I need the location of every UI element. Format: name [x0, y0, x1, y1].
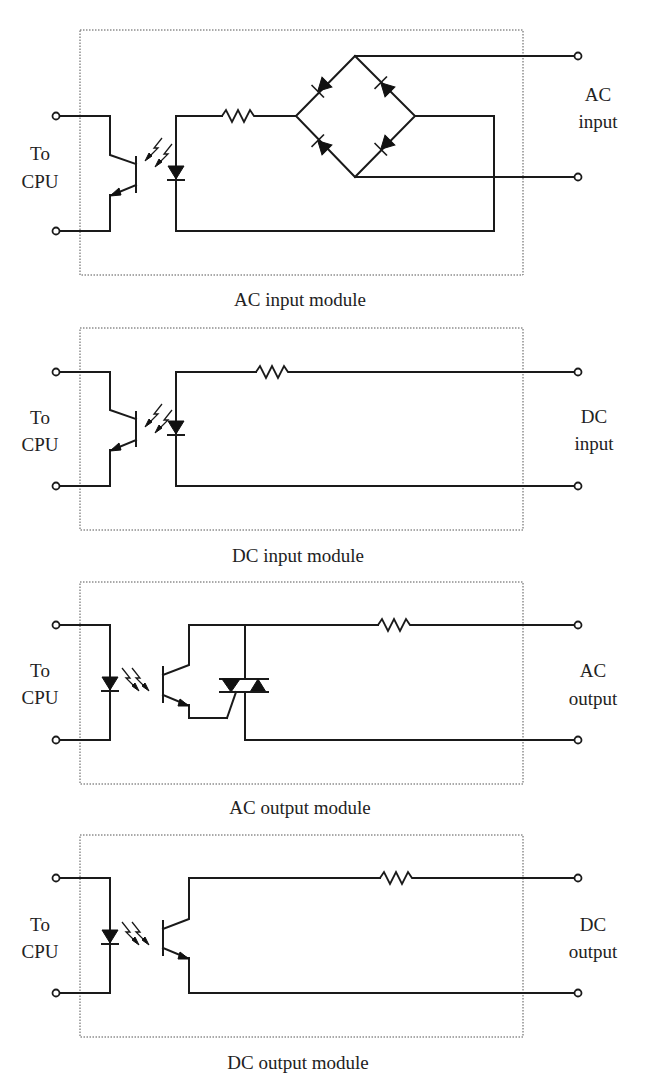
cpu-terminal-top	[53, 113, 60, 120]
right-label-line1: AC	[580, 660, 606, 681]
cpu-terminal-bottom	[53, 228, 60, 235]
dc-output-terminal-bottom	[575, 990, 582, 997]
bridge-rectifier-icon	[296, 56, 415, 177]
dc-input-terminal-bottom	[575, 483, 582, 490]
led-icon	[168, 166, 184, 180]
right-label-line2: input	[578, 111, 618, 132]
module-boundary	[80, 835, 523, 1037]
dc-input-module: To CPU DC input DC input module	[22, 328, 615, 566]
right-label-line1: DC	[581, 406, 607, 427]
right-label-line1: AC	[585, 84, 611, 105]
dc-input-terminal-top	[575, 369, 582, 376]
resistor-icon	[222, 110, 258, 122]
cpu-terminal-top	[53, 622, 60, 629]
light-emission-icon	[122, 668, 149, 691]
resistor-icon	[380, 872, 416, 884]
resistor-icon	[378, 619, 414, 631]
cpu-terminal-bottom	[53, 737, 60, 744]
left-label-line1: To	[30, 407, 50, 428]
left-label-line1: To	[30, 660, 50, 681]
led-icon	[168, 421, 184, 435]
module-caption: AC output module	[229, 797, 370, 818]
phototransistor-icon	[110, 116, 136, 231]
light-emission-icon	[145, 138, 172, 167]
right-label-line2: output	[569, 688, 618, 709]
module-caption: AC input module	[234, 289, 366, 310]
ac-input-terminal-bottom	[575, 174, 582, 181]
ac-output-terminal-top	[575, 622, 582, 629]
left-label-line2: CPU	[22, 434, 59, 455]
led-icon	[102, 930, 118, 944]
light-emission-icon	[122, 922, 149, 945]
io-modules-diagram: To CPU AC input AC input module To CPU D…	[0, 0, 653, 1092]
ac-input-module: To CPU AC input AC input module	[22, 30, 619, 310]
dc-output-module: To CPU DC output DC output module	[22, 835, 618, 1073]
right-label-line2: output	[569, 941, 618, 962]
left-label-line1: To	[30, 143, 50, 164]
cpu-terminal-bottom	[53, 990, 60, 997]
resistor-icon	[256, 366, 292, 378]
right-label-line2: input	[574, 433, 614, 454]
module-caption: DC input module	[232, 545, 364, 566]
left-label-line2: CPU	[22, 941, 59, 962]
led-icon	[102, 677, 118, 691]
right-label-line1: DC	[580, 914, 606, 935]
phototransistor-icon	[163, 878, 574, 993]
left-label-line1: To	[30, 914, 50, 935]
module-boundary	[80, 582, 523, 784]
dc-output-terminal-top	[575, 875, 582, 882]
cpu-terminal-bottom	[53, 483, 60, 490]
module-boundary	[80, 30, 523, 275]
light-emission-icon	[145, 404, 172, 433]
phototransistor-icon	[110, 372, 136, 486]
cpu-terminal-top	[53, 875, 60, 882]
module-caption: DC output module	[227, 1052, 368, 1073]
left-label-line2: CPU	[22, 171, 59, 192]
ac-output-module: To CPU AC output AC output module	[22, 582, 618, 818]
triac-icon	[220, 625, 268, 740]
ac-input-terminal-top	[575, 53, 582, 60]
left-label-line2: CPU	[22, 687, 59, 708]
ac-output-terminal-bottom	[575, 737, 582, 744]
cpu-terminal-top	[53, 369, 60, 376]
module-boundary	[80, 328, 523, 530]
